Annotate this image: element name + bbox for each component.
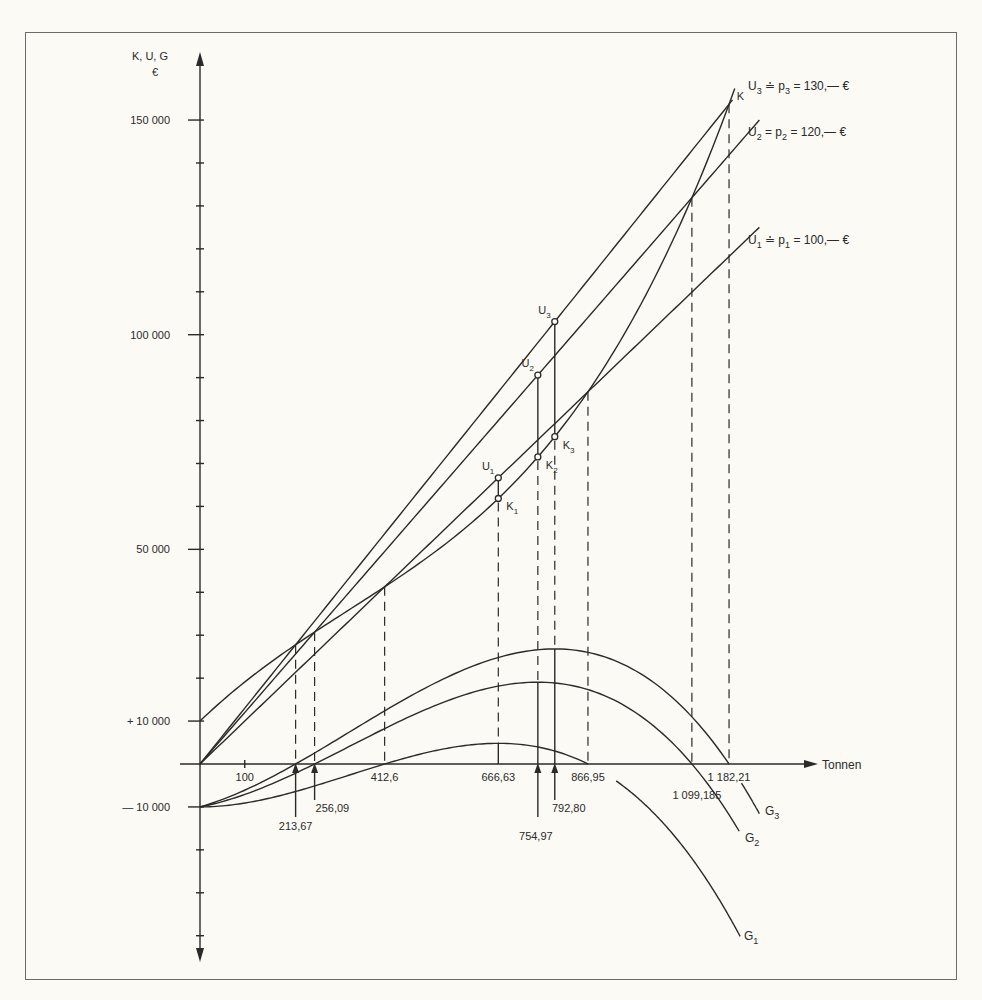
break-even-label: 1 182,21 — [708, 771, 751, 783]
y-axis-arrow-icon — [196, 52, 204, 66]
y-axis-label: K, U, G — [132, 50, 168, 62]
y-tick-label: — 10 000 — [122, 801, 170, 813]
revenue-label-u2: U2 = p2 = 120,— € — [748, 125, 846, 142]
revenue-point-marker — [535, 372, 541, 378]
markers — [292, 104, 729, 817]
revenue-point-label: U1 — [482, 460, 495, 476]
break-even-label: 1 099,185 — [672, 789, 721, 801]
profit-label-g2: G2 — [745, 831, 759, 848]
break-even-label: 213,67 — [279, 820, 313, 832]
break-even-label: 866,95 — [571, 771, 605, 783]
revenue-point-marker — [552, 319, 558, 325]
y-tick-label: 150 000 — [130, 114, 170, 126]
profit-curve-g2 — [200, 682, 739, 831]
profit-label-g3: G3 — [765, 804, 779, 821]
labels: TonnenK, U, G€150 000100 00050 000+ 10 0… — [122, 50, 861, 946]
curves — [200, 89, 759, 937]
x-axis-label: Tonnen — [822, 758, 861, 772]
revenue-point-marker — [495, 475, 501, 481]
profit-label-g1: G1 — [744, 929, 758, 946]
cost-point-marker — [535, 454, 541, 460]
y-tick-label: 50 000 — [136, 543, 170, 555]
x-axis-arrow-icon — [804, 760, 818, 768]
break-even-label: 412,6 — [371, 771, 399, 783]
revenue-label-u3: U3 ≐ p3 = 130,— € — [748, 79, 849, 96]
y-axis-down-arrow-icon — [196, 948, 204, 962]
cost-point-label: K1 — [506, 500, 518, 516]
break-even-chart: TonnenK, U, G€150 000100 00050 000+ 10 0… — [0, 0, 982, 1000]
x-tick-label: 100 — [236, 771, 254, 783]
cost-point-marker — [552, 434, 558, 440]
revenue-point-label: U3 — [538, 304, 551, 320]
cost-point-marker — [495, 495, 501, 501]
cost-point-label: K2 — [546, 459, 558, 475]
profit-curve-g3 — [741, 783, 759, 814]
break-even-label: 256,09 — [316, 802, 350, 814]
revenue-point-label: U2 — [521, 357, 534, 373]
y-tick-label: + 10 000 — [127, 715, 170, 727]
y-tick-label: 100 000 — [130, 329, 170, 341]
revenue-line-u2 — [200, 120, 759, 764]
cost-curve-label: K — [737, 90, 745, 102]
cost-point-label: K3 — [563, 439, 575, 455]
max-profit-label: 792,80 — [552, 802, 586, 814]
y-axis-unit: € — [152, 66, 158, 78]
max-profit-label: 754,97 — [519, 830, 553, 842]
revenue-label-u1: U1 ≐ p1 = 100,— € — [748, 233, 849, 250]
revenue-line-u3 — [200, 100, 733, 764]
cost-curve-k — [200, 89, 735, 722]
revenue-line-u1 — [200, 227, 759, 764]
axes — [180, 52, 818, 962]
max-profit-label: 666,63 — [481, 771, 515, 783]
